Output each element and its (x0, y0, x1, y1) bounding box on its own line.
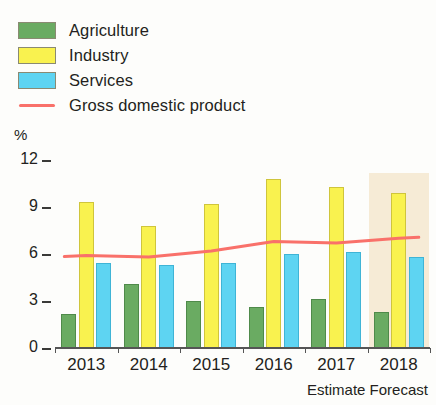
y-axis-tick-label: 0 (29, 338, 38, 356)
legend-item-agriculture: Agriculture (18, 18, 245, 43)
x-axis-label-2015: 2015 (180, 355, 242, 375)
legend-label-agriculture: Agriculture (69, 22, 149, 39)
chart-legend: Agriculture Industry Services Gross dome… (18, 18, 245, 118)
y-axis-tick-0: 0 (0, 348, 55, 349)
y-axis-tick-3: 3 (0, 301, 55, 302)
x-axis-sub-label-forecast: Forecast (364, 381, 434, 398)
x-axis-tick-end (430, 348, 431, 353)
legend-item-gdp: Gross domestic product (18, 93, 245, 118)
x-axis-tick-2015 (180, 348, 181, 353)
plot-area (55, 160, 430, 348)
y-axis-tick-12: 12 (0, 160, 55, 161)
x-axis-label-2016: 2016 (243, 355, 305, 375)
legend-swatch-icon-agriculture (18, 22, 56, 39)
y-axis-tick-mark (42, 301, 51, 303)
x-axis-label-2013: 2013 (55, 355, 117, 375)
y-axis-tick-mark (42, 348, 51, 350)
x-axis-tick-2017 (305, 348, 306, 353)
x-axis-tick-2013 (55, 348, 56, 353)
y-axis-unit-label: % (14, 126, 27, 143)
x-axis-labels: 201320142015201620172018 (55, 355, 430, 379)
y-axis-tick-label: 3 (29, 291, 38, 309)
legend-label-services: Services (69, 72, 133, 89)
legend-line-icon-gdp (18, 97, 56, 114)
legend-label-gdp: Gross domestic product (69, 97, 245, 114)
chart-container: Agriculture Industry Services Gross dome… (0, 0, 436, 405)
y-axis-tick-label: 6 (29, 244, 38, 262)
legend-swatch-icon-industry (18, 47, 56, 64)
x-axis-label-2014: 2014 (118, 355, 180, 375)
x-axis-tick-2014 (118, 348, 119, 353)
y-axis-tick-6: 6 (0, 254, 55, 255)
y-axis-tick-mark (42, 254, 51, 256)
x-axis-tick-2016 (243, 348, 244, 353)
x-axis-label-2017: 2017 (305, 355, 367, 375)
x-axis-sub-labels: EstimateForecast (55, 381, 430, 401)
y-axis-tick-label: 12 (20, 150, 38, 168)
legend-item-services: Services (18, 68, 245, 93)
y-axis-tick-9: 9 (0, 207, 55, 208)
legend-label-industry: Industry (69, 47, 129, 64)
legend-item-industry: Industry (18, 43, 245, 68)
x-axis-sub-label-estimate: Estimate (301, 381, 371, 398)
y-axis-tick-mark (42, 160, 51, 162)
x-axis-label-2018: 2018 (368, 355, 430, 375)
y-axis-tick-mark (42, 207, 51, 209)
gdp-line-path (64, 237, 419, 257)
gdp-line-series (55, 160, 430, 348)
y-axis-tick-label: 9 (29, 197, 38, 215)
legend-swatch-icon-services (18, 72, 56, 89)
x-axis-tick-2018 (368, 348, 369, 353)
